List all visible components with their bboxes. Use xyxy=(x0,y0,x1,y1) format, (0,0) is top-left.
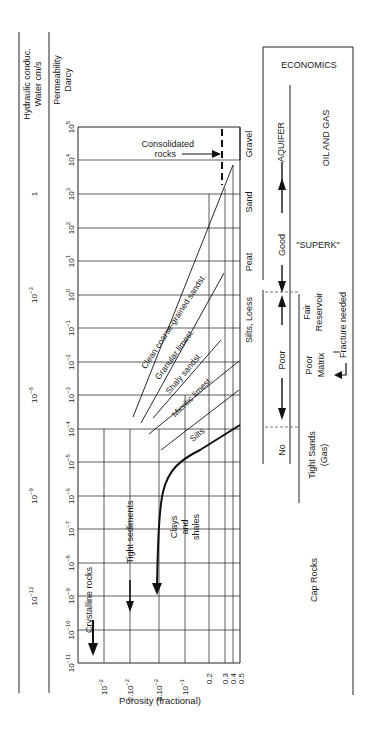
svg-text:AQUIFER: AQUIFER xyxy=(276,122,286,163)
svg-text:10−10: 10−10 xyxy=(65,620,76,640)
svg-text:0.2: 0.2 xyxy=(205,672,214,684)
arrow-down-icon xyxy=(278,281,286,293)
arrow-right-icon xyxy=(212,150,221,158)
svg-text:OIL AND GAS: OIL AND GAS xyxy=(321,110,331,167)
svg-text:10−9: 10−9 xyxy=(65,587,76,603)
svg-text:Cap Rocks: Cap Rocks xyxy=(309,557,319,602)
svg-text:Darcy: Darcy xyxy=(63,68,73,92)
svg-text:Poor: Poor xyxy=(304,355,314,374)
svg-text:10−7: 10−7 xyxy=(65,520,76,536)
fracture-needed-label: Fracture needed xyxy=(338,292,348,358)
svg-text:10−5: 10−5 xyxy=(65,453,76,469)
svg-text:Good: Good xyxy=(277,234,287,256)
hydraulic-tick-labels: 1 10−3 10−6 10−9 10−12 xyxy=(28,191,39,605)
svg-text:102: 102 xyxy=(65,221,76,234)
svg-text:10−1: 10−1 xyxy=(179,678,190,694)
arrow-down-icon xyxy=(152,583,162,595)
svg-text:10−4: 10−4 xyxy=(65,420,76,436)
svg-text:10−12: 10−12 xyxy=(28,586,39,606)
svg-text:10−1: 10−1 xyxy=(65,319,76,335)
tight-sands-label: Tight Sands (Gas) xyxy=(307,431,329,479)
permeability-porosity-diagram: Hydraulic conduc. Water cm/s Permeabilit… xyxy=(0,0,369,730)
arrow-down-icon xyxy=(126,601,134,612)
svg-text:105: 105 xyxy=(65,120,76,133)
svg-text:Permeability: Permeability xyxy=(52,55,62,105)
arrow-left-icon xyxy=(334,371,342,379)
svg-text:shales: shales xyxy=(191,513,201,540)
sediment-column: Gravel Sand Peat Silts, Loess xyxy=(244,131,254,343)
svg-text:Clays: Clays xyxy=(169,515,179,538)
x-axis-label: Porosity (fractional) xyxy=(119,695,201,706)
svg-text:0.5: 0.5 xyxy=(237,672,246,684)
svg-text:1: 1 xyxy=(30,191,39,196)
svg-text:and: and xyxy=(180,519,190,534)
economics-title: ECONOMICS xyxy=(281,60,337,70)
cap-rocks-label: Cap Rocks xyxy=(309,557,319,602)
svg-text:10−9: 10−9 xyxy=(28,487,39,503)
svg-text:101: 101 xyxy=(65,254,76,267)
svg-text:Consolidated: Consolidated xyxy=(141,139,194,149)
svg-text:100: 100 xyxy=(65,288,76,301)
vertical-grid xyxy=(104,165,233,663)
svg-text:10−11: 10−11 xyxy=(65,653,76,672)
superk-label: "SUPERK" xyxy=(296,240,339,250)
svg-text:Water cm/s: Water cm/s xyxy=(33,61,43,107)
svg-text:Poor: Poor xyxy=(277,350,287,369)
no-label: No xyxy=(277,444,287,456)
poor-matrix-label: Poor Matrix xyxy=(304,352,326,377)
poor-label: Poor xyxy=(277,350,287,369)
svg-text:No: No xyxy=(277,444,287,456)
svg-text:Fair: Fair xyxy=(302,304,312,320)
micritic-limestone-line-2 xyxy=(161,390,239,450)
consolidated-rocks-label: Consolidated rocks xyxy=(141,139,194,159)
svg-text:rocks: rocks xyxy=(154,149,176,159)
svg-text:Sand: Sand xyxy=(244,191,254,212)
svg-text:Silts, Loess: Silts, Loess xyxy=(244,296,254,343)
arrow-down-icon xyxy=(88,643,98,656)
svg-text:Fracture needed: Fracture needed xyxy=(338,292,348,358)
economics-panel xyxy=(242,47,353,695)
svg-text:10−2: 10−2 xyxy=(65,353,76,369)
svg-text:Tight sediments: Tight sediments xyxy=(125,500,135,564)
svg-text:103: 103 xyxy=(65,187,76,200)
hydraulic-title: Hydraulic conduc. Water cm/s xyxy=(22,48,43,120)
svg-text:Peat: Peat xyxy=(244,252,254,271)
silts-clays-curve xyxy=(157,425,240,585)
svg-text:104: 104 xyxy=(65,153,76,166)
svg-text:10−3: 10−3 xyxy=(28,286,39,302)
svg-text:10−2: 10−2 xyxy=(98,678,109,694)
svg-text:Tight Sands: Tight Sands xyxy=(307,431,317,479)
aquifer-label: AQUIFER xyxy=(276,122,286,163)
oil-and-gas-label: OIL AND GAS xyxy=(321,110,331,167)
svg-text:Reservoir: Reservoir xyxy=(314,293,324,332)
svg-text:10−6: 10−6 xyxy=(28,386,39,402)
svg-text:10−3: 10−3 xyxy=(65,386,76,402)
tight-sediments-label: Tight sediments xyxy=(125,500,135,564)
svg-text:Matrix: Matrix xyxy=(316,352,326,377)
arrow-up-icon xyxy=(278,178,286,190)
svg-text:10−8: 10−8 xyxy=(65,554,76,570)
svg-text:Hydraulic conduc.: Hydraulic conduc. xyxy=(22,48,32,120)
fair-reservoir-label: Fair Reservoir xyxy=(302,293,324,332)
svg-text:(Gas): (Gas) xyxy=(319,444,329,467)
svg-text:Gravel: Gravel xyxy=(244,131,254,158)
permeability-tick-labels: 105 104 103 102 101 100 10−1 10−2 10−3 1… xyxy=(65,120,76,672)
arrow-down-icon xyxy=(278,408,286,420)
svg-text:10−6: 10−6 xyxy=(65,487,76,503)
permeability-title: Permeability Darcy xyxy=(52,55,73,105)
svg-text:Silts: Silts xyxy=(188,426,207,444)
label-silts: Silts xyxy=(188,426,207,444)
good-label: Good xyxy=(277,234,287,256)
